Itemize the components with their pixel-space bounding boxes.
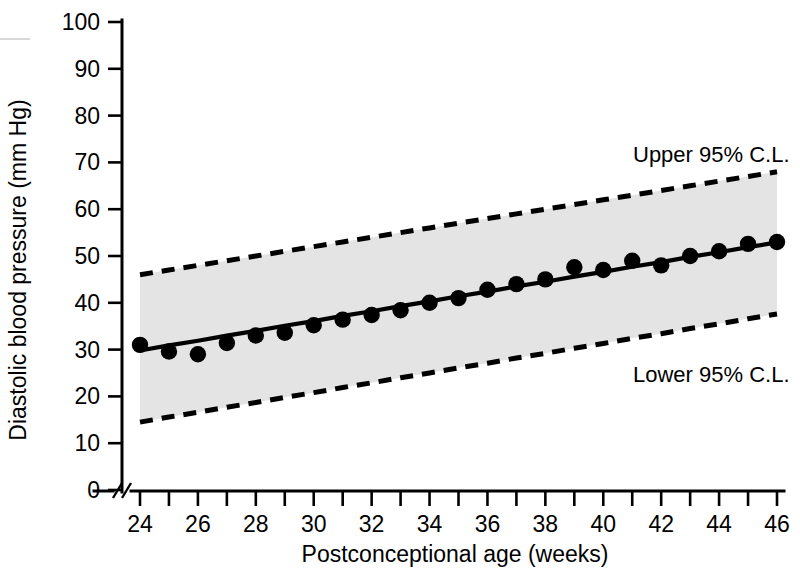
y-axis-tick-label: 10: [74, 430, 100, 456]
x-axis-tick-label: 28: [243, 511, 269, 537]
y-axis-tick-label: 70: [74, 149, 100, 175]
data-point: [740, 236, 756, 252]
y-axis-tick-label: 20: [74, 383, 100, 409]
data-point: [248, 327, 264, 343]
data-point: [479, 282, 495, 298]
data-point: [653, 257, 669, 273]
upper-confidence-limit-label: Upper 95% C.L.: [633, 142, 790, 167]
data-point: [363, 307, 379, 323]
x-axis: 242628303234363840424446: [94, 483, 790, 537]
x-axis-tick-label: 38: [533, 511, 559, 537]
y-axis: 0102030405060708090100: [62, 9, 122, 503]
y-axis-tick-label: 60: [74, 196, 100, 222]
x-axis-tick-marks: [140, 491, 777, 506]
diastolic-blood-pressure-scatter-chart: 0102030405060708090100 24262830323436384…: [0, 0, 800, 568]
data-point: [190, 346, 206, 362]
x-axis-tick-label: 32: [359, 511, 385, 537]
x-axis-tick-label: 44: [706, 511, 732, 537]
data-point: [566, 259, 582, 275]
data-point: [277, 325, 293, 341]
y-axis-tick-label: 80: [74, 103, 100, 129]
y-axis-tick-label: 30: [74, 337, 100, 363]
data-point: [769, 234, 785, 250]
x-axis-tick-label: 26: [185, 511, 211, 537]
chart-figure: 0102030405060708090100 24262830323436384…: [0, 0, 800, 568]
x-axis-tick-label: 40: [590, 511, 616, 537]
y-axis-tick-label: 40: [74, 290, 100, 316]
data-point: [682, 248, 698, 264]
y-axis-tick-label: 90: [74, 56, 100, 82]
data-point: [450, 290, 466, 306]
x-axis-tick-label: 30: [301, 511, 327, 537]
y-axis-tick-label: 100: [62, 9, 100, 35]
data-point: [421, 295, 437, 311]
x-axis-tick-label: 42: [648, 511, 674, 537]
data-point: [219, 335, 235, 351]
data-point: [334, 311, 350, 327]
data-point: [132, 337, 148, 353]
data-point: [392, 302, 408, 318]
y-axis-title: Diastolic blood pressure (mm Hg): [5, 99, 31, 440]
x-axis-title: Postconceptional age (weeks): [302, 541, 609, 567]
x-axis-tick-label: 46: [764, 511, 790, 537]
x-axis-tick-labels: 242628303234363840424446: [127, 511, 790, 537]
y-axis-tick-label: 50: [74, 243, 100, 269]
y-axis-tick-labels: 0102030405060708090100: [62, 9, 100, 503]
x-axis-tick-label: 34: [417, 511, 443, 537]
data-point: [624, 252, 640, 268]
data-point: [595, 262, 611, 278]
data-point: [711, 243, 727, 259]
y-axis-tick-marks: [108, 22, 122, 490]
x-axis-tick-label: 24: [127, 511, 153, 537]
data-point: [537, 271, 553, 287]
lower-confidence-limit-label: Lower 95% C.L.: [633, 362, 790, 387]
data-point: [161, 343, 177, 359]
data-point: [508, 276, 524, 292]
data-point: [306, 317, 322, 333]
x-axis-tick-label: 36: [475, 511, 501, 537]
